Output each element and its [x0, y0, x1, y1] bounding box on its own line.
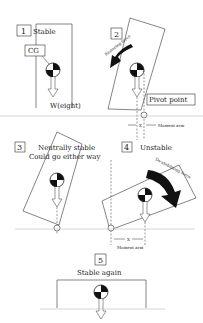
moment-arm-x: X: [127, 237, 130, 242]
panel-number: 1: [21, 27, 26, 36]
destabilising-force-arrow-icon: [146, 170, 181, 208]
panel-title: Unstable: [140, 144, 172, 152]
panel-2-restoring: 2 Restoring force Pivot point X Moment a…: [104, 18, 195, 140]
center-of-gravity-icon: [130, 63, 144, 77]
panel-4-unstable: 4 Unstable De-stabilising force X Moment…: [102, 142, 196, 250]
panel-title: Stable: [33, 28, 56, 36]
center-of-gravity-icon: [138, 188, 152, 202]
pivot-point-label: Pivot point: [149, 96, 188, 104]
weight-label: W(eight): [50, 102, 81, 110]
moment-arm-x: X: [139, 123, 142, 128]
panel-number: 5: [98, 256, 103, 265]
panel-number: 4: [124, 143, 129, 152]
center-of-gravity-icon: [94, 285, 108, 299]
pivot-icon: [108, 225, 114, 231]
cg-label: CG: [28, 47, 39, 55]
pivot-icon: [141, 112, 147, 118]
weight-arrow-icon: [140, 202, 150, 222]
panel-number: 2: [114, 30, 119, 39]
weight-arrow-icon: [52, 187, 62, 207]
panel-3-neutral: 3 Neutrally stable Could go either way: [15, 132, 101, 235]
panel-number: 3: [17, 143, 22, 152]
stability-diagram: 1 Stable CG W(eight) 2 Restoring force P…: [0, 0, 203, 323]
center-of-gravity-icon: [46, 63, 60, 77]
pivot-icon: [54, 225, 60, 231]
panel-subtitle: Could go either way: [29, 153, 101, 161]
panel-1-stable: 1 Stable CG W(eight): [17, 24, 81, 110]
panel-title: Neutrally stable: [38, 144, 95, 152]
weight-arrow-icon: [132, 77, 142, 97]
center-of-gravity-icon: [50, 173, 64, 187]
panel-title: Stable again: [77, 269, 122, 277]
weight-arrow-icon: [48, 77, 58, 97]
moment-arm-label: Moment arm: [158, 123, 184, 128]
moment-arm-label: Moment arm: [117, 245, 143, 250]
